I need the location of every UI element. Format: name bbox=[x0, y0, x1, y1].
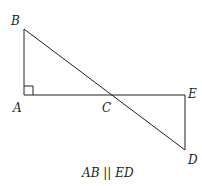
right-angle-mark bbox=[24, 86, 33, 95]
label-d: D bbox=[187, 153, 198, 167]
caption: AB || ED bbox=[81, 166, 134, 180]
label-b: B bbox=[10, 14, 20, 28]
geometry-diagram: B A C E D AB || ED bbox=[0, 0, 202, 186]
label-a: A bbox=[12, 101, 22, 115]
label-c: C bbox=[102, 101, 111, 115]
segment-bd bbox=[24, 29, 185, 150]
label-e: E bbox=[187, 87, 197, 101]
